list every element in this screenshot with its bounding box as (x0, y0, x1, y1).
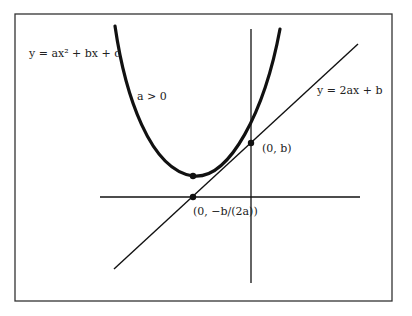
y-intercept-point (248, 140, 254, 146)
x-point-label: (0, −b/(2a)) (193, 205, 258, 218)
vertex-point (190, 173, 196, 179)
line-equation-label: y = 2ax + b (316, 84, 382, 97)
diagram-canvas: y = ax² + bx + c a > 0 y = 2ax + b (0, b… (0, 0, 412, 316)
condition-label: a > 0 (137, 90, 167, 103)
parabola-equation-label: y = ax² + bx + c (28, 47, 120, 60)
axis-crossing-point (190, 194, 196, 200)
linear-function-line (114, 44, 358, 269)
y-intercept-label: (0, b) (262, 142, 292, 155)
